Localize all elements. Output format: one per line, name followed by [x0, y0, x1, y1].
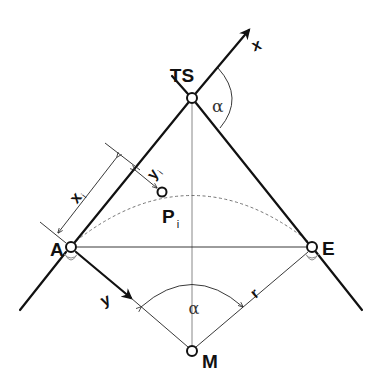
point-m [187, 346, 197, 356]
point-a [66, 242, 76, 252]
label-e: E [322, 238, 335, 259]
label-pi-sub: i [177, 218, 179, 230]
label-pi-main: P [162, 206, 175, 227]
tangent-ts-e [196, 103, 308, 243]
point-pi [158, 188, 167, 197]
radius-m-e [196, 252, 308, 347]
label-central-angle: α [189, 299, 200, 318]
tangent-e-lower [316, 252, 362, 310]
label-ts: TS [170, 65, 194, 86]
x-axis-arrow [196, 30, 249, 93]
label-xi-main: x [66, 189, 85, 207]
label-a: A [50, 239, 64, 260]
tangent-a-lower [20, 252, 66, 310]
label-x-axis: x [249, 35, 263, 54]
label-yi: yi [143, 163, 165, 184]
curve-diagram: TS A E M Pi x y xi yi r α α [0, 0, 380, 390]
label-y-axis: y [98, 290, 113, 309]
label-m: M [202, 351, 218, 372]
radius-a-m [131, 298, 188, 347]
point-e [307, 242, 317, 252]
label-xi: xi [66, 186, 88, 207]
label-pi: Pi [162, 206, 179, 230]
point-ts [187, 93, 197, 103]
label-deflection-angle: α [212, 96, 224, 116]
